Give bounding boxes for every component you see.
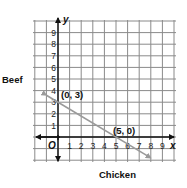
y-tick-label: 8 <box>51 39 56 49</box>
axes <box>36 18 174 161</box>
x-tick-label: 1 <box>67 141 72 151</box>
axis-labels: Beef Chicken x y O <box>2 14 176 180</box>
y-tick-label: 5 <box>51 74 56 84</box>
origin-label: O <box>48 140 56 151</box>
x-axis-label: Chicken <box>99 169 136 180</box>
x-tick-label: 5 <box>114 141 119 151</box>
y-tick-label: 9 <box>51 28 56 38</box>
x-axis-letter: x <box>169 140 176 151</box>
x-tick-label: 9 <box>160 141 165 151</box>
x-tick-label: 3 <box>90 141 95 151</box>
y-tick-label: 7 <box>51 51 56 61</box>
x-tick-label: 8 <box>148 141 153 151</box>
point-label: (0, 3) <box>61 89 83 100</box>
y-axis-letter: y <box>62 14 69 25</box>
annotations: (0, 3)(5, 0) <box>61 89 135 136</box>
y-tick-label: 6 <box>51 63 56 73</box>
y-axis-label: Beef <box>2 74 23 85</box>
y-tick-label: 4 <box>51 86 56 96</box>
point-label: (5, 0) <box>113 125 135 136</box>
y-tick-label: 2 <box>51 109 56 119</box>
chart: 123456789123456789 Beef Chicken x y O (0… <box>0 0 187 188</box>
y-tick-label: 1 <box>51 121 56 131</box>
x-tick-label: 4 <box>102 141 107 151</box>
x-tick-label: 2 <box>79 141 84 151</box>
